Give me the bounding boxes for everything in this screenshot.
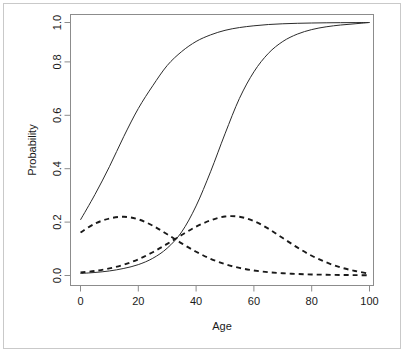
figure-root: 0.0 0.2 0.4 0.6 0.8 1.0 Probability 0 20… <box>0 0 404 352</box>
x-axis-title: Age <box>212 320 232 332</box>
curve-density-early <box>81 217 370 275</box>
y-tick-label-4: 0.8 <box>51 54 63 69</box>
x-axis-tick-labels: 0 20 40 60 80 100 <box>77 295 378 307</box>
curve-cumulative-early <box>81 23 370 220</box>
data-curves <box>81 23 370 276</box>
x-tick-label-5: 100 <box>360 295 378 307</box>
x-axis-ticks <box>81 286 370 292</box>
y-tick-label-1: 0.2 <box>51 214 63 229</box>
y-axis-ticks <box>65 23 71 276</box>
x-tick-label-4: 80 <box>306 295 318 307</box>
curve-density-late <box>81 216 370 274</box>
y-axis-tick-labels: 0.0 0.2 0.4 0.6 0.8 1.0 <box>51 15 63 283</box>
x-tick-label-2: 40 <box>190 295 202 307</box>
y-tick-label-2: 0.4 <box>51 161 63 176</box>
x-tick-label-0: 0 <box>77 295 83 307</box>
x-tick-label-1: 20 <box>132 295 144 307</box>
y-axis-title: Probability <box>26 124 38 176</box>
y-tick-label-3: 0.6 <box>51 108 63 123</box>
y-tick-label-5: 1.0 <box>51 15 63 30</box>
plot-box <box>71 15 374 286</box>
plot-canvas: 0.0 0.2 0.4 0.6 0.8 1.0 Probability 0 20… <box>0 0 404 352</box>
y-tick-label-0: 0.0 <box>51 268 63 283</box>
x-tick-label-3: 60 <box>248 295 260 307</box>
curve-cumulative-late <box>81 23 370 274</box>
